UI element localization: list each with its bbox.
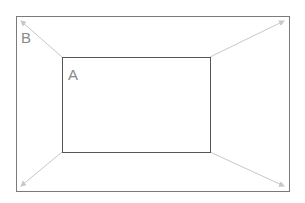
outer-box-b (17, 17, 290, 192)
nested-boxes-diagram: B A (0, 0, 305, 203)
inner-box-a (63, 58, 211, 153)
connector-bottom-right (210, 152, 284, 186)
connector-bottom-left (21, 152, 62, 186)
label-a: A (68, 66, 78, 83)
connector-top-right (210, 21, 284, 57)
label-b: B (21, 29, 31, 46)
